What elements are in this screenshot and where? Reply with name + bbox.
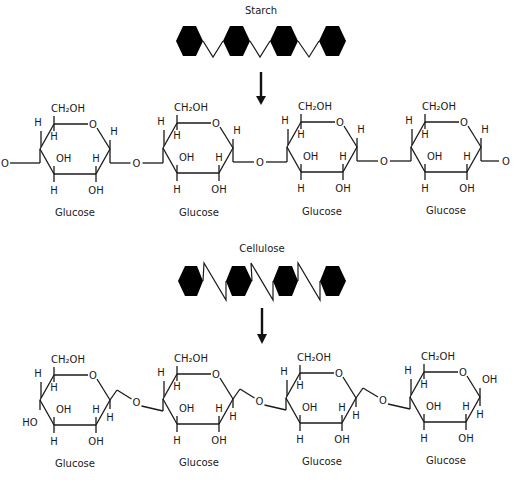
glucose-hexagon-icon: [273, 266, 298, 296]
ch2oh-label: CH₂OH: [51, 103, 85, 114]
bridge-oxygen-label: O: [502, 156, 510, 167]
oh-label: OH: [334, 434, 349, 445]
h-label: H: [157, 367, 165, 378]
h-label: H: [50, 382, 58, 393]
h-label: H: [173, 184, 181, 195]
h-label: H: [352, 410, 360, 421]
ring-oxygen-label: O: [89, 119, 97, 130]
h-label: H: [481, 124, 489, 135]
h-label: H: [110, 126, 118, 137]
oh-label: OH: [303, 151, 318, 162]
h-label: H: [338, 402, 346, 413]
h-label: H: [281, 115, 289, 126]
cellulose-glucose-label-1: Glucose: [55, 458, 95, 469]
cellulose-glucose-label-4: Glucose: [426, 455, 466, 466]
ch2oh-label: CH₂OH: [298, 101, 332, 112]
down-arrow-icon: [256, 72, 266, 105]
ch2oh-label: CH₂OH: [297, 352, 331, 363]
h-label: H: [50, 436, 58, 447]
h-label: H: [34, 117, 42, 128]
h-label: H: [233, 125, 241, 136]
oh-label: OH: [335, 183, 350, 194]
ring-oxygen-label: O: [212, 369, 220, 380]
glucose-ring: CH₂OHOHHOHHHOHH: [405, 101, 489, 194]
bridge-oxygen-label: O: [380, 156, 388, 167]
h-label: H: [297, 129, 305, 140]
h-label: H: [157, 116, 165, 127]
oh-label: OH: [458, 433, 473, 444]
h-label: H: [215, 152, 223, 163]
glucose-ring: CH₂OHOHHOHHHOHH: [157, 353, 237, 446]
h-label: H: [296, 434, 304, 445]
h-label: H: [173, 130, 181, 141]
cellulose-schematic-chain: [178, 263, 346, 300]
glucose-hexagon-icon: [223, 26, 250, 56]
starch-glucose-label-1: Glucose: [55, 207, 95, 218]
oh-label: OH: [88, 185, 103, 196]
ch2oh-label: CH₂OH: [174, 353, 208, 364]
h-label: H: [404, 365, 412, 376]
starch-glucose-label-2: Glucose: [179, 207, 219, 218]
ring-oxygen-label: O: [459, 367, 467, 378]
starch-molecule: CH₂OHOHHOHHHOHHCH₂OHOHHOHHHOHHCH₂OHOHHOH…: [1, 101, 510, 196]
bridge-oxygen-label: O: [256, 157, 264, 168]
oh-label: OH: [56, 153, 71, 164]
oh-label: OH: [56, 404, 71, 415]
ring-oxygen-label: O: [212, 118, 220, 129]
glucose-hexagon-icon: [178, 266, 203, 296]
h-label: H: [92, 153, 100, 164]
h-label: H: [421, 183, 429, 194]
ring-oxygen-label: O: [336, 117, 344, 128]
ring-oxygen-label: O: [335, 368, 343, 379]
cellulose-molecule: CH₂OHOHHOHHHOHHHOCH₂OHOHHOHHHOHHCH₂OHOHH…: [22, 351, 497, 447]
h-label: H: [462, 401, 470, 412]
oh-label: OH: [211, 184, 226, 195]
oh-label: OH: [179, 403, 194, 414]
ch2oh-label: CH₂OH: [421, 351, 455, 362]
oh-label: OH: [211, 435, 226, 446]
h-label: H: [215, 403, 223, 414]
h-label: H: [173, 381, 181, 392]
oh-label: OH: [459, 183, 474, 194]
cellulose-glucose-label-3: Glucose: [302, 456, 342, 467]
h-label: H: [50, 131, 58, 142]
oh-label: OH: [482, 374, 497, 385]
h-label: H: [421, 129, 429, 140]
h-label: H: [50, 185, 58, 196]
bridge-oxygen-label: O: [256, 396, 264, 407]
h-label: H: [420, 433, 428, 444]
h-label: H: [173, 435, 181, 446]
h-label: H: [420, 379, 428, 390]
ch2oh-label: CH₂OH: [174, 102, 208, 113]
starch-title: Starch: [245, 5, 277, 16]
down-arrow-icon: [257, 308, 267, 344]
oh-label: OH: [427, 151, 442, 162]
glucose-hexagon-icon: [226, 266, 252, 296]
oh-label: OH: [88, 436, 103, 447]
h-label: H: [297, 183, 305, 194]
starch-schematic-chain: [176, 26, 346, 57]
bridge-oxygen-label: O: [133, 158, 141, 169]
glucose-hexagon-icon: [270, 26, 298, 56]
bridge-oxygen-label: O: [1, 158, 9, 169]
h-label: H: [405, 115, 413, 126]
glucose-hexagon-icon: [176, 26, 203, 56]
cellulose-title: Cellulose: [239, 243, 284, 254]
h-label: H: [106, 412, 114, 423]
cellulose-glucose-label-2: Glucose: [179, 457, 219, 468]
h-label: H: [339, 151, 347, 162]
glucose-ring: CH₂OHOHHOHHHOHHOH: [404, 351, 497, 444]
h-label: H: [296, 380, 304, 391]
glucose-ring: CH₂OHOHHOHHHOHHHO: [22, 354, 113, 447]
h-label: H: [34, 368, 42, 379]
glucose-ring: CH₂OHOHHOHHHOHH: [280, 352, 360, 445]
h-label: H: [280, 366, 288, 377]
glucose-ring: CH₂OHOHHOHHHOHH: [34, 103, 118, 196]
ho-label: HO: [22, 417, 38, 428]
h-label: H: [229, 411, 237, 422]
glucose-ring: CH₂OHOHHOHHHOHH: [281, 101, 365, 194]
ch2oh-label: CH₂OH: [422, 101, 456, 112]
h-label: H: [476, 409, 484, 420]
oh-label: OH: [426, 401, 441, 412]
glucose-hexagon-icon: [319, 26, 346, 56]
